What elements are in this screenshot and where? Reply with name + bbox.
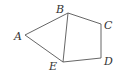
- edge-bc: [68, 13, 101, 24]
- edge-ea: [25, 35, 63, 62]
- geometry-diagram: ABCDE: [0, 0, 119, 75]
- edge-ab: [25, 13, 68, 35]
- edge-be: [63, 13, 68, 62]
- vertex-label-c: C: [104, 19, 113, 32]
- vertex-label-a: A: [13, 30, 22, 43]
- edges-group: [25, 13, 101, 62]
- vertex-label-b: B: [55, 3, 64, 16]
- pentagon-figure: ABCDE: [0, 0, 119, 75]
- labels-group: ABCDE: [13, 3, 113, 73]
- vertex-label-d: D: [103, 55, 113, 68]
- edge-de: [63, 58, 101, 62]
- vertex-label-e: E: [48, 60, 57, 73]
